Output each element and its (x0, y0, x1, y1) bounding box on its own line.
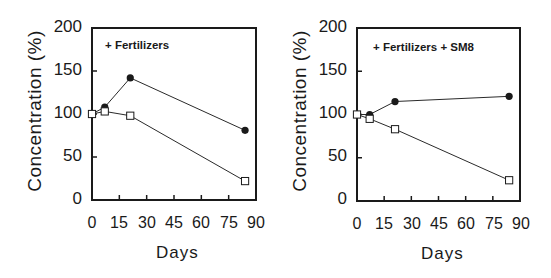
x-tick-90: 90 (241, 214, 271, 232)
x-tick-30: 30 (132, 214, 162, 232)
x-tick-30: 30 (397, 215, 427, 233)
series-line-open-square (357, 115, 509, 181)
open-square-marker (506, 177, 513, 184)
x-tick-60: 60 (186, 214, 216, 232)
chart-fertilizers: Concentration (%) 200 150 100 50 0 0 15 … (0, 0, 275, 278)
y-tick-100: 100 (42, 103, 82, 123)
series-line-open-square (92, 111, 245, 181)
x-tick-45: 45 (159, 214, 189, 232)
y-tick-50: 50 (42, 146, 82, 166)
series-line-filled-circle (92, 78, 245, 130)
x-tick-0: 0 (342, 215, 372, 233)
y-tick-150: 150 (42, 60, 82, 80)
chart-fertilizers-sm8: Concentration (%) 200 150 100 50 0 0 15 … (275, 0, 550, 278)
open-square-marker (366, 115, 373, 122)
y-tick-200: 200 (42, 17, 82, 37)
y-tick-0: 0 (42, 189, 82, 209)
x-tick-15: 15 (104, 214, 134, 232)
x-tick-0: 0 (77, 214, 107, 232)
series-line-filled-circle (357, 96, 509, 114)
y-tick-100: 100 (307, 103, 347, 123)
x-axis-label: Days (156, 243, 199, 263)
x-tick-90: 90 (506, 215, 536, 233)
open-square-marker (391, 126, 398, 133)
y-tick-50: 50 (307, 146, 347, 166)
x-tick-75: 75 (214, 214, 244, 232)
open-square-marker (101, 108, 108, 115)
filled-circle-marker (506, 93, 513, 100)
axes-frame (357, 28, 520, 201)
y-tick-200: 200 (307, 17, 347, 37)
x-tick-45: 45 (424, 215, 454, 233)
y-tick-0: 0 (307, 189, 347, 209)
filled-circle-marker (241, 127, 248, 134)
open-square-marker (88, 110, 95, 117)
x-axis-label: Days (421, 244, 464, 264)
chart-annotation: + Fertilizers + SM8 (373, 41, 474, 53)
filled-circle-marker (127, 74, 134, 81)
open-square-marker (127, 112, 134, 119)
x-tick-60: 60 (451, 215, 481, 233)
x-tick-75: 75 (479, 215, 509, 233)
open-square-marker (241, 177, 248, 184)
y-tick-150: 150 (307, 60, 347, 80)
x-tick-15: 15 (369, 215, 399, 233)
axes-frame (92, 28, 256, 200)
chart-annotation: + Fertilizers (105, 39, 169, 51)
open-square-marker (353, 111, 360, 118)
filled-circle-marker (391, 98, 398, 105)
